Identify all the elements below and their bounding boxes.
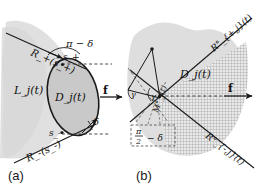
panel-b: R°_{+,j}(t) R°_{-,j}(t) M°_j(t) D_j(t) γ… (127, 12, 255, 183)
boxed-angle-numerator: π (135, 127, 142, 136)
label-region-dj-a: D_j(t) (54, 91, 86, 104)
panel-label-a: (a) (8, 168, 24, 183)
label-force-a: f (103, 84, 109, 97)
label-region-dj-b: D_j(t) (179, 68, 211, 81)
label-angle-pi-minus-delta: π − δ (65, 38, 93, 49)
panel-label-b: (b) (136, 168, 152, 183)
boxed-angle-denominator: 2 (135, 137, 141, 146)
boxed-angle-remainder: − δ (147, 133, 163, 143)
label-region-lj: L_j(t) (13, 84, 43, 97)
label-angle-gamma-mid: γ (151, 92, 156, 101)
label-angle-delta-a: δ (93, 116, 99, 127)
panel-a: R_+(s_+) R_-(s_-) L_j(t) D_j(t) s_+ s_- … (0, 21, 122, 183)
label-angle-gamma-left: γ (131, 90, 136, 99)
label-point-s-plus: s_+ (63, 52, 80, 63)
vertex-dot-b (150, 47, 154, 51)
figure-canvas: R_+(s_+) R_-(s_-) L_j(t) D_j(t) s_+ s_- … (0, 0, 256, 190)
label-point-s-minus: s_- (49, 128, 61, 139)
